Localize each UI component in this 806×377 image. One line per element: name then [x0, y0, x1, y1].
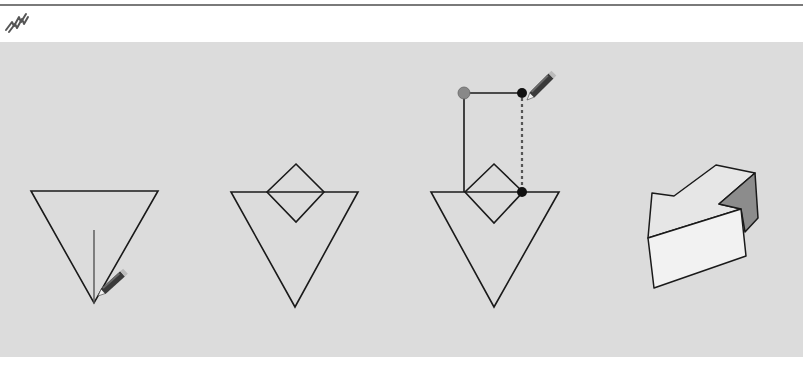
endpoint-marker	[517, 187, 527, 197]
endpoint-marker	[517, 88, 527, 98]
step-1-figure	[31, 191, 158, 303]
step-3-figure	[431, 71, 559, 307]
step-4-figure	[648, 165, 758, 288]
drawing-canvas[interactable]: Step 1: Draw line from triangle apex Ste…	[0, 42, 803, 357]
top-divider	[0, 4, 803, 6]
step-2-figure	[231, 164, 358, 307]
pencil-icon	[525, 71, 557, 103]
inference-point	[458, 87, 470, 99]
freehand-pencil-icon	[4, 10, 30, 34]
